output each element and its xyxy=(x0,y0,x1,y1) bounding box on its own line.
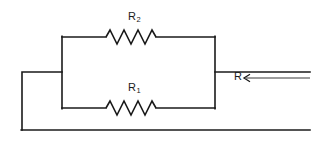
equivalent-resistance-label: R xyxy=(234,71,242,82)
resistor-r2-label-subscript: 2 xyxy=(137,15,141,24)
circuit-diagram-canvas: R2 R1 R xyxy=(0,0,316,145)
resistor-r1-label-text: R xyxy=(128,81,136,93)
wire-left-lead xyxy=(22,72,62,130)
resistor-r2-label: R2 xyxy=(128,11,141,22)
resistor-r1-label-subscript: 1 xyxy=(137,86,141,95)
resistor-r1-zigzag xyxy=(106,101,156,115)
resistor-r2-zigzag xyxy=(106,30,156,44)
circuit-schematic xyxy=(0,0,316,145)
resistor-r2-label-text: R xyxy=(128,10,136,22)
resistor-r1-label: R1 xyxy=(128,82,141,93)
